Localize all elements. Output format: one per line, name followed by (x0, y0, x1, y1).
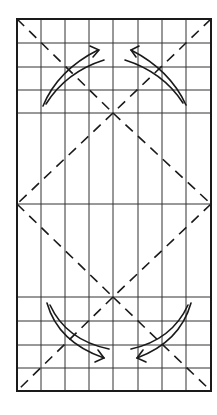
fold-arrow-top-right-icon (125, 46, 186, 105)
diagram-canvas (0, 0, 217, 415)
fold-lines (17, 19, 211, 391)
grid-lines (17, 19, 211, 391)
fold-arrow-bottom-left-icon (47, 303, 109, 362)
fold-arrow-top-left-icon (43, 46, 104, 106)
fold-diagram (0, 0, 217, 415)
fold-arrow-bottom-right-icon (131, 303, 191, 362)
paper-frame (17, 19, 211, 391)
